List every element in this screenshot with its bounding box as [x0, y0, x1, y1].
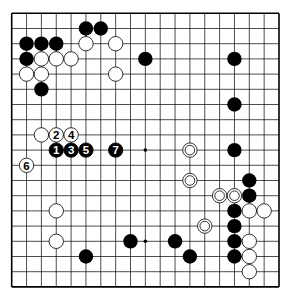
move-number: 5	[83, 144, 90, 156]
black-stone	[168, 234, 182, 248]
black-stone	[138, 52, 152, 66]
white-stone	[34, 128, 48, 142]
black-stone	[79, 21, 93, 35]
black-stone	[19, 37, 33, 51]
black-stone	[227, 234, 241, 248]
white-stone	[79, 37, 93, 51]
black-stone	[227, 52, 241, 66]
white-stone	[108, 67, 122, 81]
numbered-stone-5: 5	[79, 143, 93, 157]
white-stone	[64, 52, 78, 66]
black-stone	[94, 21, 108, 35]
move-number: 7	[112, 144, 118, 156]
move-number: 6	[23, 160, 29, 172]
numbered-stone-6: 6	[19, 158, 33, 172]
white-stone	[34, 67, 48, 81]
white-stone	[242, 234, 256, 248]
star-point	[144, 148, 148, 152]
white-stone	[49, 234, 63, 248]
move-number: 3	[68, 144, 74, 156]
black-stone	[34, 82, 48, 96]
black-stone	[123, 234, 137, 248]
black-stone	[242, 189, 256, 203]
black-stone	[227, 204, 241, 218]
white-stone	[49, 204, 63, 218]
white-stone	[108, 37, 122, 51]
move-number: 1	[53, 144, 60, 156]
star-point	[144, 240, 148, 244]
numbered-stone-4: 4	[64, 128, 78, 142]
numbered-stone-2: 2	[49, 128, 63, 142]
black-stone	[227, 97, 241, 111]
white-stone	[242, 249, 256, 263]
black-stone	[19, 52, 33, 66]
move-number: 4	[68, 129, 75, 141]
white-stone	[34, 52, 48, 66]
numbered-stone-7: 7	[108, 143, 122, 157]
black-stone	[227, 219, 241, 233]
white-stone	[257, 204, 271, 218]
move-number: 2	[53, 129, 59, 141]
white-stone	[19, 67, 33, 81]
white-stone	[242, 204, 256, 218]
black-stone	[227, 249, 241, 263]
black-stone	[34, 37, 48, 51]
numbered-stone-3: 3	[64, 143, 78, 157]
black-stone	[79, 249, 93, 263]
white-stone	[49, 52, 63, 66]
go-board: 1234567	[0, 0, 291, 300]
white-stone	[242, 265, 256, 279]
black-stone	[183, 249, 197, 263]
black-stone	[227, 143, 241, 157]
black-stone	[49, 37, 63, 51]
black-stone	[242, 173, 256, 187]
numbered-stone-1: 1	[49, 143, 63, 157]
